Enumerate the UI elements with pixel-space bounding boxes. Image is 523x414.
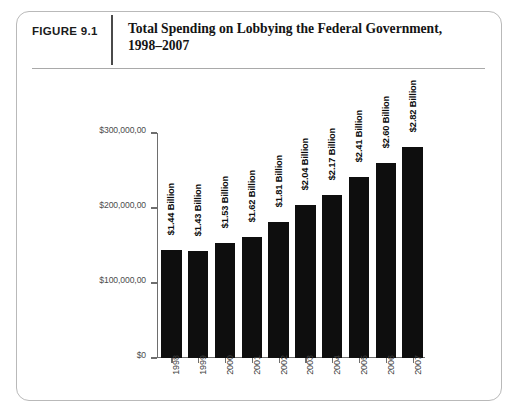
- bar-slot: $2.82 Billion2007: [402, 133, 423, 358]
- bar-value-label: $2.60 Billion: [381, 96, 391, 148]
- x-axis-tick-label: 2006: [386, 355, 396, 375]
- figure-page: FIGURE 9.1 Total Spending on Lobbying th…: [0, 0, 523, 414]
- bar[interactable]: [268, 222, 289, 358]
- bar-slot: $2.41 Billion2005: [349, 133, 370, 358]
- x-axis-tick-label: 2001: [252, 355, 262, 375]
- bar-value-label: $1.62 Billion: [247, 169, 257, 221]
- y-axis-tick-label: $100,000,00: [99, 275, 146, 285]
- bar-slot: $1.43 Billion1999: [188, 133, 209, 358]
- x-axis-tick-label: 2004: [332, 355, 342, 375]
- bar[interactable]: [242, 237, 263, 359]
- x-axis-tick-label: 2000: [225, 355, 235, 375]
- y-axis-tick: $100,000,00: [151, 282, 157, 283]
- plot-area: $300,000,00$200,000,00$100,000,00$0 $1.4…: [157, 133, 425, 358]
- bar[interactable]: [188, 251, 209, 358]
- y-axis-tick: $200,000,00: [151, 207, 157, 208]
- bar-slot: $1.53 Billion2000: [215, 133, 236, 358]
- bar-value-label: $1.53 Billion: [220, 176, 230, 228]
- bar-value-label: $1.81 Billion: [274, 155, 284, 207]
- y-axis-tick-label: $0: [137, 350, 146, 360]
- bar[interactable]: [215, 243, 236, 358]
- bar[interactable]: [349, 177, 370, 358]
- bar-value-label: $2.82 Billion: [408, 79, 418, 131]
- bar-series: $1.44 Billion1998$1.43 Billion1999$1.53 …: [158, 133, 425, 358]
- y-axis-tick-label: $200,000,00: [99, 200, 146, 210]
- x-axis-tick-label: 1998: [171, 355, 181, 375]
- bar[interactable]: [376, 163, 397, 358]
- bar-value-label: $1.43 Billion: [193, 184, 203, 236]
- bar-value-label: $2.04 Billion: [300, 138, 310, 190]
- bar[interactable]: [161, 250, 182, 358]
- x-axis-tick-label: 2005: [359, 355, 369, 375]
- bar-slot: $2.04 Billion2003: [295, 133, 316, 358]
- x-axis-tick-label: 1999: [198, 355, 208, 375]
- y-axis-tick: $300,000,00: [151, 132, 157, 133]
- y-axis-tick: $0: [151, 357, 157, 358]
- x-axis-tick-label: 2003: [305, 355, 315, 375]
- bar-slot: $2.17 Billion2004: [322, 133, 343, 358]
- bar[interactable]: [402, 147, 423, 359]
- bar[interactable]: [295, 205, 316, 358]
- bar-slot: $1.44 Billion1998: [161, 133, 182, 358]
- bar[interactable]: [322, 195, 343, 358]
- x-axis-tick-label: 2002: [279, 355, 289, 375]
- bar-value-label: $1.44 Billion: [166, 183, 176, 235]
- bar-chart: $300,000,00$200,000,00$100,000,00$0 $1.4…: [16, 11, 502, 401]
- bar-slot: $1.81 Billion2002: [268, 133, 289, 358]
- bar-slot: $2.60 Billion2006: [376, 133, 397, 358]
- bar-value-label: $2.17 Billion: [327, 128, 337, 180]
- bar-slot: $1.62 Billion2001: [242, 133, 263, 358]
- bar-value-label: $2.41 Billion: [354, 110, 364, 162]
- x-axis-tick-label: 2007: [413, 355, 423, 375]
- y-axis-tick-label: $300,000,00: [99, 125, 146, 135]
